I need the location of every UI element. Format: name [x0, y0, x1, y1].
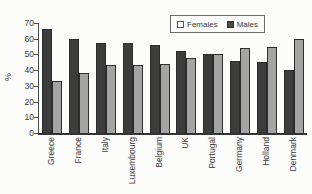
females-swatch-icon: [177, 21, 184, 28]
bar-males-denmark: [284, 70, 294, 133]
bar-group-italy: [93, 23, 120, 133]
y-tick-mark: [34, 54, 38, 55]
bar-females-germany: [240, 48, 250, 133]
legend-item-females: Females: [177, 20, 218, 29]
y-tick-mark: [34, 117, 38, 118]
bar-females-greece: [52, 81, 62, 133]
y-tick-label: 20: [16, 97, 34, 107]
chart-legend: Females Males: [170, 15, 265, 33]
legend-label-females: Females: [187, 20, 218, 29]
bar-males-france: [69, 39, 79, 133]
x-tick-cell: Luxembourg: [118, 137, 145, 193]
bar-group-greece: [39, 23, 66, 133]
y-tick-mark: [34, 39, 38, 40]
legend-item-males: Males: [227, 20, 258, 29]
x-tick-cell: Italy: [92, 137, 119, 193]
x-tick-cell: Portugal: [199, 137, 226, 193]
x-tick-cell: UK: [172, 137, 199, 193]
x-tick-cell: Holland: [252, 137, 279, 193]
bar-females-portugal: [213, 54, 223, 133]
bar-group-germany: [227, 23, 254, 133]
x-tick-label: Italy: [100, 137, 110, 153]
bar-females-belgium: [160, 64, 170, 133]
x-tick-cell: Germany: [226, 137, 253, 193]
plot-area: [38, 23, 307, 135]
bar-group-france: [66, 23, 93, 133]
x-tick-cell: Greece: [38, 137, 65, 193]
bar-group-holland: [253, 23, 280, 133]
y-tick-label: 40: [16, 65, 34, 75]
x-tick-label: Greece: [46, 137, 56, 165]
y-tick-label: 50: [16, 49, 34, 59]
bar-males-portugal: [203, 54, 213, 133]
y-tick-mark: [34, 70, 38, 71]
x-tick-cell: Belgium: [145, 137, 172, 193]
y-tick-label: 60: [16, 34, 34, 44]
x-tick-label: Belgium: [154, 137, 164, 168]
bar-group-belgium: [146, 23, 173, 133]
y-tick-label: 0: [16, 128, 34, 138]
bar-females-italy: [106, 65, 116, 133]
y-tick-label: 30: [16, 81, 34, 91]
x-tick-label: UK: [180, 137, 190, 149]
x-tick-label: France: [73, 137, 83, 163]
x-axis-labels: GreeceFranceItalyLuxembourgBelgiumUKPort…: [38, 137, 306, 193]
bar-group-denmark: [280, 23, 307, 133]
x-tick-label: Portugal: [207, 137, 217, 169]
bar-females-luxembourg: [133, 65, 143, 133]
x-tick-label: Luxembourg: [127, 137, 137, 184]
x-tick-label: Germany: [234, 137, 244, 172]
bar-group-uk: [173, 23, 200, 133]
x-tick-cell: Denmark: [279, 137, 306, 193]
bar-females-denmark: [294, 39, 304, 133]
bar-females-france: [79, 73, 89, 133]
bar-females-uk: [186, 58, 196, 133]
x-tick-label: Denmark: [288, 137, 298, 171]
bar-chart-figure: Females Males % GreeceFranceItalyLuxembo…: [0, 0, 312, 194]
bar-males-holland: [257, 62, 267, 133]
y-tick-mark: [34, 23, 38, 24]
bar-group-portugal: [200, 23, 227, 133]
y-tick-mark: [34, 86, 38, 87]
bar-females-holland: [267, 47, 277, 133]
bar-males-italy: [96, 43, 106, 133]
y-tick-label: 70: [16, 18, 34, 28]
y-tick-mark: [34, 133, 38, 134]
y-tick-mark: [34, 102, 38, 103]
x-tick-label: Holland: [261, 137, 271, 166]
legend-label-males: Males: [237, 20, 258, 29]
bar-males-uk: [176, 51, 186, 133]
x-tick-cell: France: [65, 137, 92, 193]
bar-males-germany: [230, 61, 240, 133]
males-swatch-icon: [227, 21, 234, 28]
bar-group-luxembourg: [119, 23, 146, 133]
bar-males-greece: [42, 29, 52, 133]
bar-males-luxembourg: [123, 43, 133, 133]
y-axis-label: %: [3, 73, 13, 81]
y-tick-label: 10: [16, 112, 34, 122]
bar-groups: [39, 23, 307, 133]
bar-males-belgium: [150, 45, 160, 133]
